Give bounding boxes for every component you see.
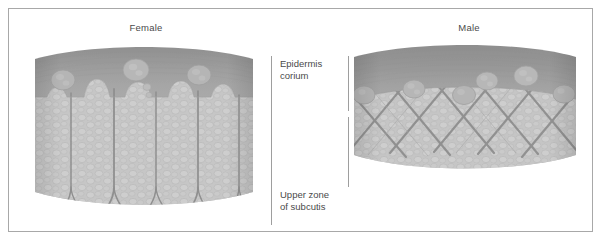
label-epidermis-line-2: corium — [280, 70, 322, 82]
panel-title-male: Male — [419, 22, 519, 33]
male-cross-section-art — [354, 37, 576, 182]
panel-title-female: Female — [96, 22, 196, 33]
annotation-rule-lower — [348, 117, 349, 187]
figure-border: Epidermis corium Upper zone of subcutis — [8, 8, 593, 232]
female-cross-section-art — [35, 37, 253, 212]
label-upper-zone-subcutis: Upper zone of subcutis — [280, 189, 329, 213]
annotation-rule-upper — [348, 56, 349, 111]
label-epidermis-corium: Epidermis corium — [280, 58, 322, 82]
label-subcutis-line-1: Upper zone — [280, 189, 329, 201]
diagram-panel-female — [35, 37, 253, 212]
diagram-panel-male — [354, 37, 576, 182]
annotation-rule-left — [271, 56, 272, 225]
label-epidermis-line-1: Epidermis — [280, 58, 322, 70]
label-subcutis-line-2: of subcutis — [280, 201, 329, 213]
